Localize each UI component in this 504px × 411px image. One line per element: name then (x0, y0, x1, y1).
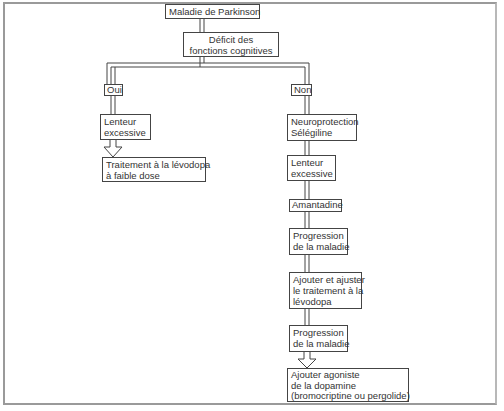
no-step-7-line-3: (bromocriptine ou pergolide) (291, 391, 405, 402)
no-step-7-line-1: Ajouter agoniste (291, 370, 405, 381)
yes-step-1-line-1: Lenteur (104, 116, 147, 127)
no-step-4-line-2: de la maladie (293, 241, 344, 252)
decision-line-1: Déficit des (187, 34, 275, 45)
no-step-amantadine: Amantadine (289, 199, 342, 212)
no-step-5-line-3: lévodopa (293, 296, 358, 307)
no-step-adjust-levodopa: Ajouter et ajuster le traitement à la lé… (289, 272, 362, 309)
no-step-1-line-2: Sélégiline (291, 127, 353, 138)
yes-step-1-line-2: excessive (104, 127, 147, 138)
no-step-6-line-1: Progression (293, 327, 344, 338)
no-step-3-line-1: Amantadine (292, 199, 343, 210)
no-step-5-line-1: Ajouter et ajuster (293, 274, 358, 285)
decision-line-2: fonctions cognitives (187, 45, 275, 56)
no-branch-label: Non (291, 84, 312, 96)
yes-step-slowness: Lenteur excessive (100, 114, 151, 140)
no-step-slowness: Lenteur excessive (287, 155, 336, 181)
no-step-2-line-2: excessive (291, 168, 332, 179)
no-step-4-line-1: Progression (293, 230, 344, 241)
no-step-progression-2: Progression de la maladie (289, 325, 348, 352)
title-node: Maladie de Parkinson (165, 4, 260, 19)
no-step-6-line-2: de la maladie (293, 338, 344, 349)
connector-pipes (0, 0, 504, 411)
no-label-text: Non (294, 84, 311, 95)
yes-label-text: Oui (107, 84, 122, 95)
title-text: Maladie de Parkinson (169, 6, 256, 17)
yes-step-2-line-2: à faible dose (106, 170, 202, 181)
no-step-5-line-2: le traitement à la (293, 285, 358, 296)
decision-node: Déficit des fonctions cognitives (183, 32, 279, 57)
no-step-neuroprotection: Neuroprotection Sélégiline (287, 114, 357, 141)
no-step-2-line-1: Lenteur (291, 157, 332, 168)
no-step-1-line-1: Neuroprotection (291, 116, 353, 127)
no-step-progression-1: Progression de la maladie (289, 228, 348, 255)
yes-branch-label: Oui (104, 84, 123, 96)
yes-step-levodopa-low-dose: Traitement à la lévodopa à faible dose (102, 157, 206, 182)
no-step-dopamine-agonist: Ajouter agoniste de la dopamine (bromocr… (287, 368, 409, 402)
yes-step-2-line-1: Traitement à la lévodopa (106, 159, 202, 170)
